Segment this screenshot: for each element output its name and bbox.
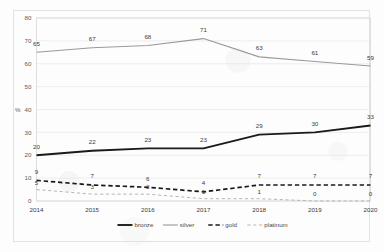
y-axis-tick-label: 50 — [25, 83, 32, 90]
data-label-silver: 63 — [256, 44, 263, 51]
data-label-gold: 7 — [90, 172, 94, 179]
y-axis-tick-label: 20 — [25, 151, 32, 158]
y-axis-unit-label: % — [15, 106, 21, 113]
data-label-gold: 7 — [257, 172, 261, 179]
x-axis-tick-labels: 2014201520162017201820192020 — [30, 206, 378, 213]
line-chart-figure: 80706050403020100 % 20142015201620172018… — [0, 0, 384, 252]
data-label-bronze: 20 — [33, 143, 40, 150]
data-label-gold: 7 — [369, 172, 373, 179]
data-label-silver: 65 — [33, 40, 40, 47]
data-label-gold: 4 — [202, 179, 206, 186]
data-label-gold: 9 — [35, 168, 39, 175]
y-axis-tick-label: 60 — [25, 60, 32, 67]
x-axis-tick-label: 2017 — [197, 206, 211, 213]
y-axis-tick-label: 80 — [25, 14, 32, 21]
data-label-bronze: 23 — [200, 136, 207, 143]
data-label-bronze: 33 — [367, 113, 374, 120]
data-label-silver: 68 — [144, 33, 151, 40]
chart-canvas: 80706050403020100 % 20142015201620172018… — [0, 0, 384, 252]
data-label-silver: 71 — [200, 26, 207, 33]
y-axis-tick-label: 0 — [28, 197, 32, 204]
data-label-platinum: 5 — [35, 179, 39, 186]
y-axis-tick-label: 30 — [25, 129, 32, 136]
y-axis-tick-label: 40 — [25, 106, 32, 113]
data-label-bronze: 23 — [144, 136, 151, 143]
data-label-platinum: 3 — [146, 183, 150, 190]
x-axis-tick-label: 2019 — [308, 206, 322, 213]
y-axis-tick-label: 70 — [25, 37, 32, 44]
y-axis-unit-label: % — [15, 106, 21, 113]
data-label-bronze: 30 — [311, 120, 318, 127]
y-axis-tick-labels: 80706050403020100 — [25, 14, 32, 204]
data-label-bronze: 22 — [89, 138, 96, 145]
data-label-platinum: 1 — [257, 188, 261, 195]
x-axis-tick-label: 2015 — [85, 206, 99, 213]
legend-label-gold[interactable]: gold — [225, 221, 237, 228]
x-axis-tick-label: 2016 — [141, 206, 155, 213]
y-axis-tick-label: 10 — [25, 174, 32, 181]
data-label-silver: 61 — [311, 49, 318, 56]
legend-label-bronze[interactable]: bronze — [134, 221, 153, 228]
data-label-gold: 7 — [313, 172, 317, 179]
data-label-gold: 6 — [146, 175, 150, 182]
chart-legend: bronzesilvergoldplatinum — [117, 221, 287, 228]
x-axis-tick-label: 2020 — [364, 206, 378, 213]
data-label-silver: 59 — [367, 54, 374, 61]
data-label-platinum: 1 — [202, 188, 206, 195]
data-label-platinum: 0 — [313, 190, 317, 197]
legend-label-silver[interactable]: silver — [180, 221, 194, 228]
data-label-platinum: 3 — [90, 183, 94, 190]
data-label-silver: 67 — [89, 35, 96, 42]
gridlines — [37, 18, 371, 201]
legend-label-platinum[interactable]: platinum — [264, 221, 287, 228]
data-point-labels: 2022232329303365676871636159976477753311… — [33, 26, 374, 197]
data-label-platinum: 0 — [369, 190, 373, 197]
x-axis-tick-label: 2014 — [30, 206, 44, 213]
x-axis-tick-label: 2018 — [252, 206, 266, 213]
series-line-silver — [37, 39, 371, 66]
data-label-bronze: 29 — [256, 122, 263, 129]
data-series-lines — [37, 39, 371, 201]
